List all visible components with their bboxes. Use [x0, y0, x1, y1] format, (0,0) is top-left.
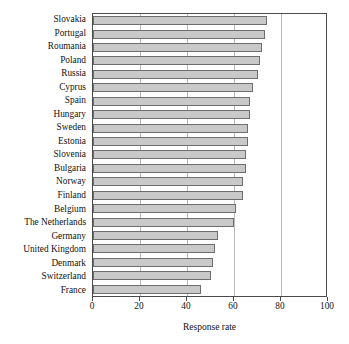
y-axis-label: France — [0, 284, 90, 298]
y-axis-label: Spain — [0, 94, 90, 108]
x-axis-tick-label: 20 — [134, 302, 143, 311]
bar — [93, 218, 234, 227]
y-axis-label: United Kingdom — [0, 243, 90, 257]
y-axis-label: Cyprus — [0, 81, 90, 95]
bar — [93, 191, 243, 200]
bar — [93, 244, 215, 253]
x-axis-tick-label: 100 — [320, 302, 334, 311]
y-axis-label: Portugal — [0, 27, 90, 41]
bar-row — [93, 162, 326, 175]
y-axis-label: The Netherlands — [0, 216, 90, 230]
x-axis-title: Response rate — [92, 322, 327, 332]
y-axis-label: Belgium — [0, 202, 90, 216]
bar — [93, 271, 211, 280]
bar — [93, 150, 246, 159]
bar — [93, 231, 218, 240]
bar — [93, 285, 201, 294]
y-axis-label: Switzerland — [0, 270, 90, 284]
bar — [93, 97, 250, 106]
y-axis-label: Estonia — [0, 135, 90, 149]
bar-row — [93, 27, 326, 40]
bar — [93, 83, 253, 92]
y-axis-label: Roumania — [0, 40, 90, 54]
y-axis-label: Slovenia — [0, 148, 90, 162]
bar-row — [93, 282, 326, 295]
bar-row — [93, 81, 326, 94]
bar-row — [93, 135, 326, 148]
bar — [93, 164, 246, 173]
bar — [93, 43, 262, 52]
bar — [93, 30, 265, 39]
bar-row — [93, 269, 326, 282]
bar-row — [93, 215, 326, 228]
bar — [93, 258, 213, 267]
bar — [93, 110, 250, 119]
y-axis-label: Norway — [0, 175, 90, 189]
bar — [93, 137, 248, 146]
x-axis-tick-label: 0 — [90, 302, 95, 311]
bar-row — [93, 175, 326, 188]
bar-row — [93, 229, 326, 242]
y-axis-label: Denmark — [0, 257, 90, 271]
y-axis-label: Poland — [0, 54, 90, 68]
y-axis-label: Sweden — [0, 121, 90, 135]
bar-row — [93, 95, 326, 108]
x-axis-tick-label: 60 — [228, 302, 237, 311]
bar-row — [93, 54, 326, 67]
bar-row — [93, 202, 326, 215]
bar-row — [93, 121, 326, 134]
response-rate-bar-chart: SlovakiaPortugalRoumaniaPolandRussiaCypr… — [0, 0, 349, 344]
bar-row — [93, 68, 326, 81]
bar-series — [93, 14, 326, 296]
y-axis-label: Finland — [0, 189, 90, 203]
plot-area — [92, 13, 327, 297]
y-axis-label: Russia — [0, 67, 90, 81]
bar — [93, 56, 260, 65]
y-axis-label: Bulgaria — [0, 162, 90, 176]
y-axis-label: Slovakia — [0, 13, 90, 27]
x-axis-tick-label: 40 — [181, 302, 190, 311]
bar-row — [93, 242, 326, 255]
y-axis-label: Germany — [0, 230, 90, 244]
bar-row — [93, 14, 326, 27]
bar-row — [93, 256, 326, 269]
y-axis-category-labels: SlovakiaPortugalRoumaniaPolandRussiaCypr… — [0, 13, 90, 297]
bar — [93, 16, 267, 25]
bar-row — [93, 188, 326, 201]
bar-row — [93, 108, 326, 121]
bar-row — [93, 41, 326, 54]
bar — [93, 177, 243, 186]
bar-row — [93, 148, 326, 161]
bar — [93, 70, 258, 79]
x-axis-tick-label: 80 — [275, 302, 284, 311]
y-axis-label: Hungary — [0, 108, 90, 122]
bar — [93, 124, 248, 133]
bar — [93, 204, 236, 213]
